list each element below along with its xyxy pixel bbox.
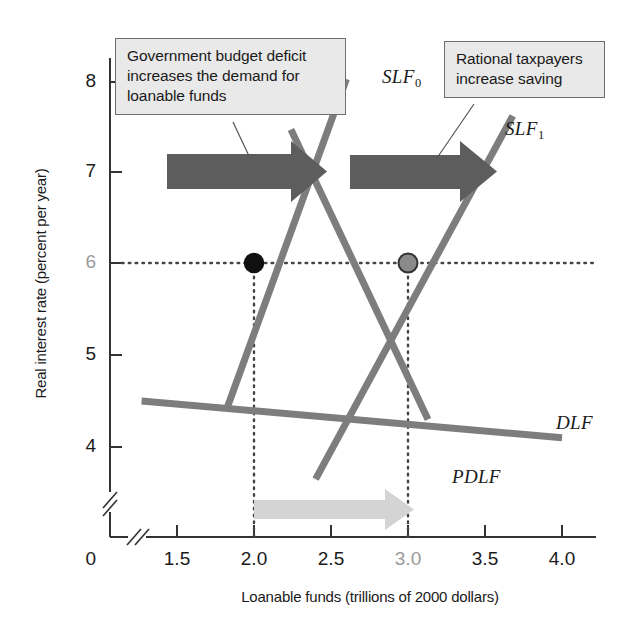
quantity-change-arrow xyxy=(254,489,414,530)
curve-label-slf0-text: SLF xyxy=(382,66,415,87)
supply-shift-arrow xyxy=(350,141,497,202)
y-tick-label-8: 8 xyxy=(62,70,96,92)
y-axis-title: Real interest rate (percent per year) xyxy=(32,104,49,464)
y-tick-label-5: 5 xyxy=(62,343,96,365)
x-tick-label-4-0: 4.0 xyxy=(532,548,592,570)
x-tick-label-2-0: 2.0 xyxy=(224,548,284,570)
y-tick-label-7: 7 xyxy=(62,160,96,182)
y-axis-ticks xyxy=(110,82,122,447)
origin-label: 0 xyxy=(62,548,96,570)
x-tick-label-3-5: 3.5 xyxy=(455,548,515,570)
x-tick-label-1-5: 1.5 xyxy=(147,548,207,570)
x-tick-label-3-0: 3.0 xyxy=(378,548,438,570)
curve-label-slf1-text: SLF xyxy=(505,118,538,139)
new-equilibrium-dot xyxy=(399,254,418,273)
original-equilibrium-dot xyxy=(245,254,264,273)
callout-deficit-leader xyxy=(233,122,249,156)
curves xyxy=(142,79,562,479)
curve-label-dlf: DLF xyxy=(556,412,593,434)
loanable-funds-figure: 8 7 6 5 4 0 1.5 2.0 2.5 3.0 3.5 4.0 Real… xyxy=(0,0,625,623)
x-axis-break-icon xyxy=(127,529,149,545)
callout-deficit: Government budget deficit increases the … xyxy=(115,38,346,115)
x-axis-ticks xyxy=(177,525,562,537)
curve-label-slf1: SLF1 xyxy=(505,118,544,140)
y-tick-label-6: 6 xyxy=(62,251,96,273)
curve-label-slf0: SLF0 xyxy=(382,66,421,88)
x-axis-title: Loanable funds (trillions of 2000 dollar… xyxy=(170,588,570,605)
callout-saving: Rational taxpayers increase saving xyxy=(444,41,605,98)
x-tick-label-2-5: 2.5 xyxy=(301,548,361,570)
curve-slf0 xyxy=(226,79,346,410)
curve-label-slf0-sub: 0 xyxy=(415,76,422,90)
y-tick-label-4: 4 xyxy=(62,435,96,457)
curve-label-slf1-sub: 1 xyxy=(538,128,545,142)
curve-label-pdlf: PDLF xyxy=(452,466,501,488)
